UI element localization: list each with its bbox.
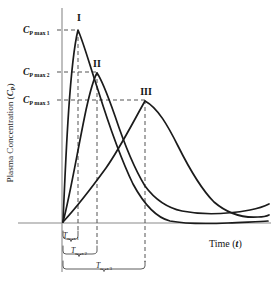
tmax-drop-lines bbox=[78, 30, 145, 262]
curve-formulation-2 bbox=[63, 73, 269, 222]
y-tick-label-2: CP max2 bbox=[23, 67, 50, 78]
tmax2-label: Tmax2 bbox=[71, 246, 88, 256]
plasma-concentration-chart: I II III CP max1 CP max2 CP max3 Tmax1 bbox=[0, 0, 277, 287]
tmax3-brace-group: Tmax3 bbox=[63, 261, 145, 272]
cmax3-label: CP max3 bbox=[23, 95, 50, 106]
curve-label-3: III bbox=[140, 86, 152, 97]
curve-label-2: II bbox=[93, 58, 101, 69]
y-tick-label-1: CP max1 bbox=[23, 25, 50, 36]
tmax2-brace-group: Tmax2 bbox=[63, 246, 97, 257]
cmax2-label: CP max2 bbox=[23, 67, 50, 78]
tmax1-label: Tmax1 bbox=[63, 231, 80, 241]
curve-formulation-3 bbox=[63, 101, 269, 222]
x-axis-title: Time (t) bbox=[209, 238, 242, 250]
y-tick-label-3: CP max3 bbox=[23, 95, 50, 106]
axes-group bbox=[18, 8, 271, 272]
tmax3-label: Tmax3 bbox=[96, 261, 113, 271]
cmax1-label: CP max1 bbox=[23, 25, 50, 36]
curve-label-1: I bbox=[77, 12, 81, 23]
tmax1-brace-group: Tmax1 bbox=[63, 231, 80, 242]
pk-figure: I II III CP max1 CP max2 CP max3 Tmax1 bbox=[0, 0, 277, 287]
y-axis-title: Plasma Concentration (CP) bbox=[5, 83, 16, 182]
